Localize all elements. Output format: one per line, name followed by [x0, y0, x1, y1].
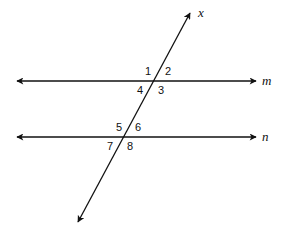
angle-5: 5	[116, 121, 122, 133]
angle-6: 6	[135, 121, 141, 133]
angle-2: 2	[165, 65, 171, 77]
label-n: n	[262, 129, 269, 144]
angle-1: 1	[145, 65, 151, 77]
angle-3: 3	[158, 84, 164, 96]
transversal-diagram: x m n 1 2 4 3 5 6 7 8	[0, 0, 286, 233]
angle-7: 7	[107, 140, 113, 152]
transversal-x	[78, 13, 190, 222]
label-x: x	[197, 5, 204, 20]
angle-4: 4	[137, 84, 143, 96]
label-m: m	[262, 73, 271, 88]
angle-8: 8	[127, 140, 133, 152]
